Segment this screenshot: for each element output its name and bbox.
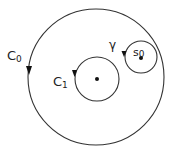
contour-c0: [28, 9, 164, 145]
label-c1: C1: [53, 74, 68, 90]
label-c0: C0: [7, 48, 22, 64]
contour-diagram: C0 C1 γ s0: [0, 0, 171, 154]
label-gamma: γ: [109, 38, 116, 52]
c0-direction-arrow-icon: [26, 66, 32, 75]
c1-center-point: [95, 77, 99, 81]
label-s0: s0: [133, 46, 145, 59]
